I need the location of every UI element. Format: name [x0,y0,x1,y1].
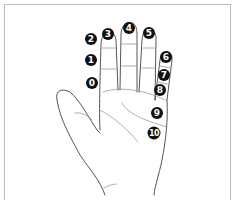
marker-8: 8 [154,84,166,96]
marker-4: 4 [123,22,135,34]
marker-1: 1 [85,54,97,66]
marker-0: 0 [86,77,98,89]
marker-3: 3 [102,28,114,40]
marker-10: 10 [148,127,161,140]
marker-6: 6 [160,51,172,63]
hand-outline-icon [0,0,237,200]
marker-5: 5 [143,27,155,39]
marker-2: 2 [85,33,97,45]
marker-9: 9 [151,107,163,119]
marker-7: 7 [158,69,170,81]
